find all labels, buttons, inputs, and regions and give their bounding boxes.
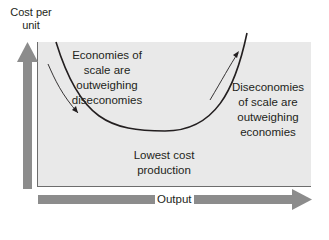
economies-annotation: Economies of scale are outweighing disec… <box>58 48 156 108</box>
diseconomies-annotation: Diseconomies of scale are outweighing ec… <box>228 80 308 140</box>
y-axis-arrow-icon <box>17 42 38 189</box>
lowest-cost-annotation: Lowest cost production <box>124 148 204 178</box>
x-axis-label: Output <box>155 192 194 206</box>
